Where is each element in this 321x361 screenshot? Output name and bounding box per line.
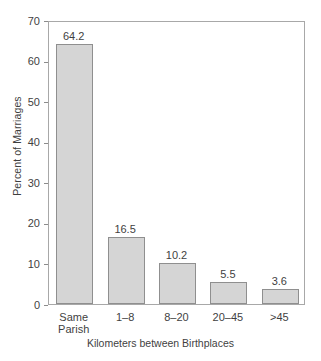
bar-chart-figure: Percent of Marriages 010203040506070 64.… — [0, 0, 321, 361]
y-axis-tick-label: 70 — [14, 16, 40, 27]
bar — [56, 44, 93, 304]
y-axis-tick-label: 30 — [14, 178, 40, 189]
y-axis-tick-label: 10 — [14, 259, 40, 270]
x-axis-tick-label: >45 — [244, 311, 314, 323]
x-axis-title: Kilometers between Birthplaces — [0, 337, 321, 349]
bar — [210, 282, 247, 304]
y-axis-tick-label: 40 — [14, 137, 40, 148]
y-axis-tick-mark — [44, 305, 48, 306]
bar-value-label: 10.2 — [147, 250, 207, 261]
bar-value-label: 64.2 — [44, 31, 104, 42]
y-axis-tick-label: 60 — [14, 56, 40, 67]
plot-area — [48, 21, 305, 305]
y-axis-tick-label: 20 — [14, 218, 40, 229]
y-axis-tick-label: 0 — [14, 300, 40, 311]
y-axis-tick-label: 50 — [14, 97, 40, 108]
bar-value-label: 3.6 — [249, 276, 309, 287]
bar — [262, 289, 299, 304]
bar — [159, 263, 196, 304]
bar-value-label: 16.5 — [95, 224, 155, 235]
bar — [108, 237, 145, 304]
